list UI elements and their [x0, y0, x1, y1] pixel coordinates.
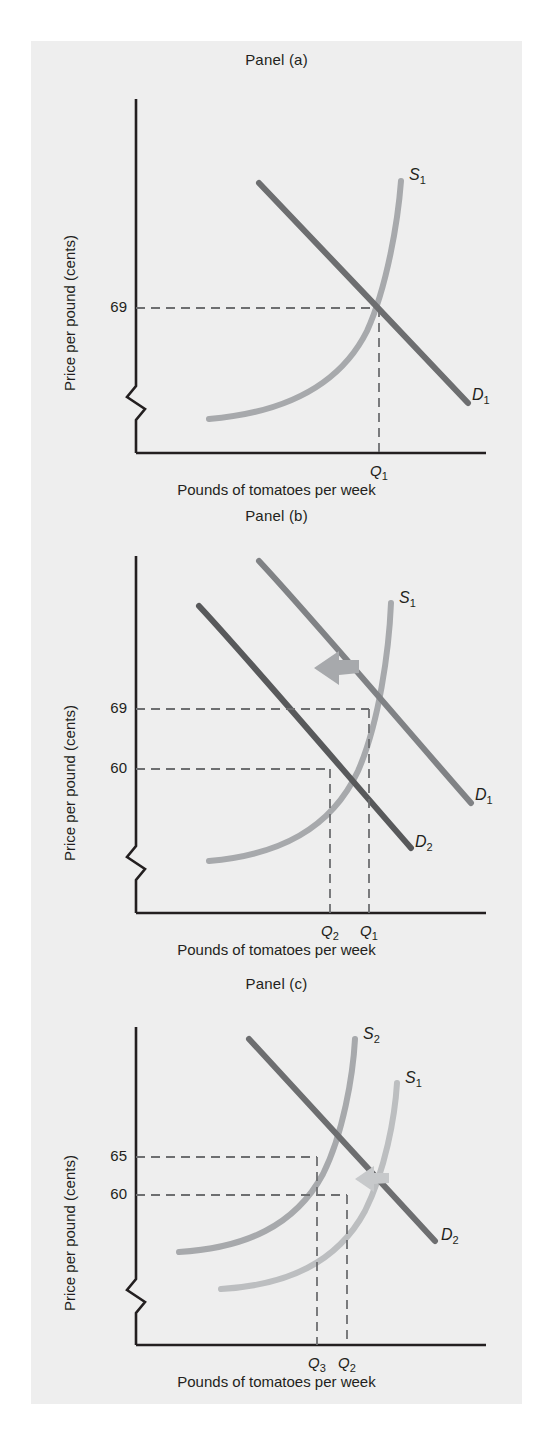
panel-c-y-axis-with-break	[127, 1027, 145, 1345]
panel-b-y-axis-with-break	[127, 556, 145, 913]
panel-a: Panel (a) Price per pound (cents) 69 DQ1…	[31, 41, 522, 501]
panel-a-label-d1: D1	[472, 386, 490, 406]
panel-c-supply-curve-s2	[179, 1039, 355, 1252]
panel-b-quantity-tick-q1: Q1	[352, 922, 386, 942]
panel-a-demand-curve-d1	[259, 183, 468, 403]
panel-c: Panel (c) Price per pound (cents) 65 60 …	[31, 971, 522, 1404]
panel-a-x-axis-label: Pounds of tomatoes per week	[31, 481, 522, 498]
panel-b-label-s1: S1	[399, 589, 416, 609]
panel-c-label-s1: S1	[405, 1069, 422, 1089]
panel-c-label-s2: S2	[363, 1025, 380, 1045]
panel-c-label-d2: D2	[441, 1226, 459, 1246]
panel-b-demand-curve-d2	[199, 606, 411, 848]
figure-panel-container: Panel (a) Price per pound (cents) 69 DQ1…	[31, 41, 522, 1404]
panel-b: Panel (b) Price per pound (cents) 69 60 …	[31, 501, 522, 971]
panel-b-price-tick-69: 69	[93, 699, 127, 716]
panel-b-x-axis-label: Pounds of tomatoes per week	[31, 941, 522, 958]
panel-b-label-d2: D2	[415, 833, 433, 853]
panel-c-x-axis-label: Pounds of tomatoes per week	[31, 1373, 522, 1390]
panel-b-plot	[31, 501, 522, 971]
panel-a-quantity-tick-q1: DQ1	[362, 462, 396, 482]
panel-c-price-tick-60: 60	[93, 1185, 127, 1202]
panel-a-price-tick-69: 69	[93, 298, 127, 315]
panel-b-supply-curve-s1	[209, 603, 391, 861]
panel-b-demand-curve-d1	[259, 561, 471, 803]
panel-a-y-axis-with-break	[127, 99, 145, 453]
panel-b-price-tick-60: 60	[93, 759, 127, 776]
panel-b-label-d1: D1	[475, 786, 493, 806]
panel-a-plot	[31, 41, 522, 501]
panel-c-quantity-tick-q2: Q2	[330, 1354, 364, 1374]
panel-b-demand-shift-arrow-left-icon	[314, 651, 359, 685]
panel-b-quantity-tick-q2: Q2	[313, 922, 347, 942]
panel-c-quantity-tick-q3: Q3	[300, 1354, 334, 1374]
panel-a-label-s1: S1	[409, 166, 426, 186]
panel-c-price-tick-65: 65	[93, 1147, 127, 1164]
